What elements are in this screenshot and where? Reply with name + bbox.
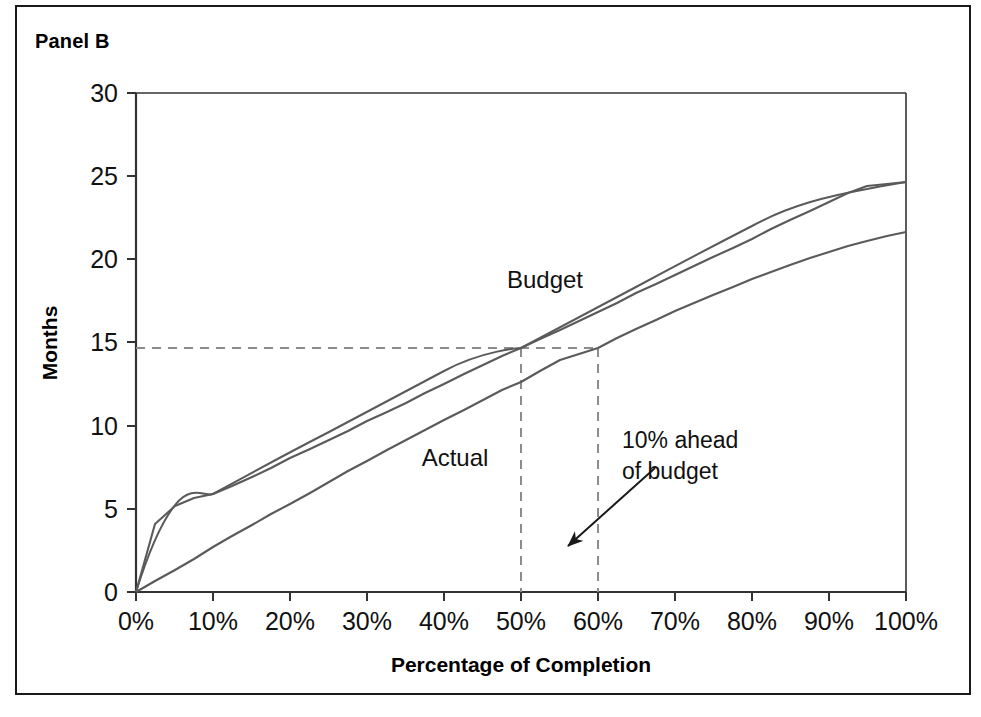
x-axis-tick-labels: 0% 10% 20% 30% 40% 50% 60% 70% 80% 90% 1…: [118, 607, 938, 635]
x-tick-label-0: 0%: [118, 607, 154, 635]
y-axis-tick-labels: 0 5 10 15 20 25 30: [90, 79, 118, 606]
x-tick-label-20: 20%: [265, 607, 315, 635]
x-tick-label-10: 10%: [188, 607, 238, 635]
y-tick-label-20: 20: [90, 245, 118, 273]
y-axis-ticks: [127, 93, 136, 592]
series-label-actual: Actual: [422, 444, 489, 471]
x-tick-label-70: 70%: [650, 607, 700, 635]
x-axis-ticks: [136, 592, 906, 601]
figure-panel-b: Panel B 0 5 10 15: [0, 0, 981, 717]
y-tick-label-25: 25: [90, 162, 118, 190]
y-tick-label-30: 30: [90, 79, 118, 107]
y-tick-label-15: 15: [90, 328, 118, 356]
reference-lines: [136, 348, 598, 592]
x-tick-label-60: 60%: [573, 607, 623, 635]
x-tick-label-90: 90%: [804, 607, 854, 635]
y-tick-label-10: 10: [90, 412, 118, 440]
x-axis-title: Percentage of Completion: [391, 653, 651, 676]
y-axis-title: Months: [38, 306, 61, 381]
line-chart: 0 5 10 15 20 25 30 0% 10% 20% 3: [0, 0, 981, 717]
x-tick-label-100: 100%: [874, 607, 938, 635]
plot-axes: [136, 93, 906, 592]
x-tick-label-30: 30%: [342, 607, 392, 635]
annotation-line-1: 10% ahead: [622, 427, 738, 453]
y-tick-label-5: 5: [104, 495, 118, 523]
x-tick-label-40: 40%: [419, 607, 469, 635]
x-tick-label-80: 80%: [727, 607, 777, 635]
series-label-budget: Budget: [507, 266, 583, 293]
x-tick-label-50: 50%: [496, 607, 546, 635]
annotation-line-2: of budget: [622, 458, 719, 484]
annotation-ahead-of-budget: 10% ahead of budget: [568, 427, 738, 546]
y-tick-label-0: 0: [104, 578, 118, 606]
